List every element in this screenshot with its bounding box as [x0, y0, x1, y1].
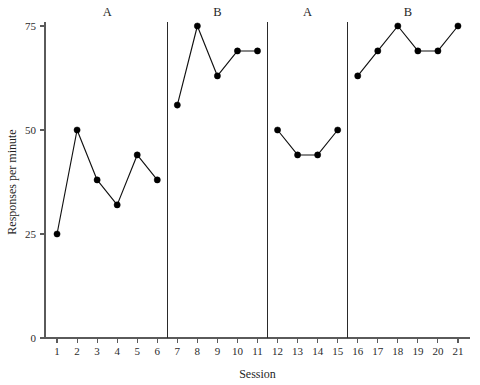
x-tick-label: 17: [372, 345, 384, 357]
x-axis-title: Session: [239, 367, 276, 381]
data-point-marker: [174, 102, 180, 108]
data-line: [278, 130, 338, 155]
data-line: [358, 26, 458, 76]
data-point-marker: [294, 152, 300, 158]
x-tick-label: 20: [432, 345, 444, 357]
x-tick-label: 15: [332, 345, 344, 357]
x-tick-label: 19: [412, 345, 424, 357]
data-point-marker: [375, 48, 381, 54]
data-series: [54, 23, 461, 237]
data-point-marker: [274, 127, 280, 133]
data-point-marker: [435, 48, 441, 54]
y-tick-label: 0: [31, 332, 37, 344]
data-point-marker: [335, 127, 341, 133]
data-point-marker: [234, 48, 240, 54]
data-point-marker: [154, 177, 160, 183]
y-axis-title: Responses per minute: [5, 129, 19, 234]
y-tick-group: 0255075: [25, 20, 45, 344]
x-tick-label: 4: [114, 345, 120, 357]
data-point-marker: [254, 48, 260, 54]
axes-group: [45, 22, 470, 338]
x-tick-label: 6: [155, 345, 161, 357]
x-tick-label: 10: [232, 345, 244, 357]
y-tick-label: 75: [25, 20, 37, 32]
data-point-marker: [94, 177, 100, 183]
x-tick-label: 16: [352, 345, 364, 357]
x-tick-group: 123456789101112131415161718192021: [54, 338, 463, 357]
phase-segment: [274, 127, 340, 158]
x-tick-label: 8: [195, 345, 201, 357]
phase-label: B: [404, 5, 412, 19]
x-tick-label: 1: [54, 345, 60, 357]
phase-label-group: ABAB: [103, 5, 412, 19]
data-point-marker: [455, 23, 461, 29]
data-point-marker: [395, 23, 401, 29]
x-tick-label: 12: [272, 345, 283, 357]
x-tick-label: 7: [175, 345, 181, 357]
phase-segment: [54, 127, 160, 237]
x-tick-label: 13: [292, 345, 304, 357]
x-tick-label: 5: [134, 345, 140, 357]
phase-label: A: [103, 5, 112, 19]
x-tick-label: 2: [74, 345, 80, 357]
phase-divider-group: [167, 22, 347, 338]
x-tick-label: 21: [452, 345, 463, 357]
data-point-marker: [134, 152, 140, 158]
y-tick-label: 50: [25, 124, 37, 136]
data-point-marker: [415, 48, 421, 54]
data-line: [177, 26, 257, 105]
data-point-marker: [54, 231, 60, 237]
x-tick-label: 14: [312, 345, 324, 357]
phase-segment: [355, 23, 461, 79]
data-point-marker: [315, 152, 321, 158]
data-point-marker: [114, 202, 120, 208]
y-tick-label: 25: [25, 228, 37, 240]
x-tick-label: 18: [392, 345, 404, 357]
chart-container: 0255075123456789101112131415161718192021…: [0, 0, 480, 385]
x-tick-label: 11: [252, 345, 263, 357]
phase-label: A: [303, 5, 312, 19]
data-point-marker: [214, 73, 220, 79]
single-subject-line-chart: 0255075123456789101112131415161718192021…: [0, 0, 480, 385]
data-point-marker: [355, 73, 361, 79]
phase-segment: [174, 23, 260, 108]
x-tick-label: 9: [215, 345, 221, 357]
phase-label: B: [213, 5, 221, 19]
data-point-marker: [74, 127, 80, 133]
data-point-marker: [194, 23, 200, 29]
data-line: [57, 130, 157, 234]
x-tick-label: 3: [94, 345, 100, 357]
